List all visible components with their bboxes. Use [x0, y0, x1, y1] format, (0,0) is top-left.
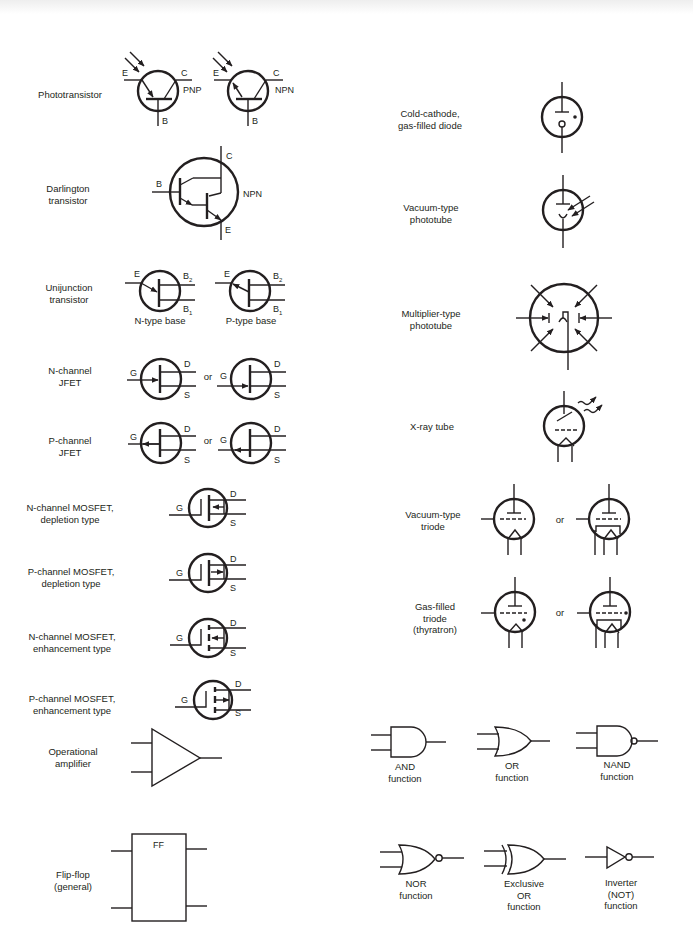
svg-text:D: D — [184, 424, 191, 434]
svg-text:E: E — [213, 68, 219, 78]
svg-text:NPN: NPN — [275, 85, 294, 95]
svg-text:G: G — [220, 435, 227, 445]
svg-text:2: 2 — [189, 277, 193, 283]
svg-text:S: S — [230, 583, 236, 593]
svg-text:S: S — [274, 455, 280, 465]
svg-text:D: D — [274, 424, 281, 434]
svg-text:S: S — [230, 648, 236, 658]
svg-text:G: G — [130, 432, 137, 442]
vacuum-phototube-icon — [543, 175, 594, 248]
svg-text:D: D — [230, 489, 237, 499]
svg-text:C: C — [226, 151, 233, 161]
ujt-ptype-icon: E B2 B1 — [215, 269, 285, 316]
svg-text:NPN: NPN — [243, 189, 262, 199]
svg-text:D: D — [230, 618, 237, 628]
svg-text:S: S — [274, 390, 280, 400]
xor-gate-icon — [484, 845, 566, 874]
phototransistor-npn-icon: E C NPN B — [213, 52, 294, 126]
pmos-enhancement-icon: G D S — [175, 679, 251, 719]
svg-text:2: 2 — [279, 277, 283, 283]
gas-triode-icon-a — [481, 577, 535, 648]
multiplier-phototube-icon — [516, 284, 612, 370]
svg-text:D: D — [230, 554, 237, 564]
svg-text:S: S — [184, 455, 190, 465]
njfet-icon-b: G D S — [217, 359, 286, 400]
vacuum-triode-icon-b — [576, 484, 629, 555]
darlington-transistor-icon: B C NPN E — [152, 146, 262, 240]
svg-text:B: B — [156, 179, 162, 189]
svg-text:D: D — [274, 359, 281, 369]
svg-text:E: E — [134, 269, 140, 279]
svg-text:FF: FF — [153, 840, 164, 850]
svg-text:D: D — [184, 359, 191, 369]
svg-text:S: S — [230, 518, 236, 528]
svg-text:S: S — [235, 708, 241, 718]
nmos-enhancement-icon: G D S — [170, 618, 246, 658]
opamp-icon — [131, 729, 222, 786]
svg-text:1: 1 — [189, 310, 193, 316]
svg-text:S: S — [184, 390, 190, 400]
svg-text:E: E — [225, 225, 231, 235]
svg-text:E: E — [122, 68, 128, 78]
pjfet-icon-a: G D S — [128, 423, 196, 465]
pmos-depletion-icon: G D S — [169, 554, 246, 593]
svg-text:PNP: PNP — [183, 85, 202, 95]
schematic-symbols-canvas: E C PNP B E C NPN B B C NPN E — [0, 0, 693, 946]
pjfet-icon-b: G D S — [218, 423, 286, 465]
nand-gate-icon — [576, 726, 658, 756]
phototransistor-pnp-icon: E C PNP B — [122, 52, 202, 126]
svg-text:G: G — [176, 633, 183, 643]
flipflop-icon: FF — [111, 834, 207, 921]
svg-text:B: B — [162, 116, 168, 126]
svg-text:C: C — [181, 68, 188, 78]
nor-gate-icon — [380, 845, 464, 874]
cold-cathode-diode-icon — [542, 82, 582, 153]
svg-text:G: G — [176, 568, 183, 578]
svg-text:B: B — [252, 116, 258, 126]
svg-text:G: G — [176, 503, 183, 513]
njfet-icon-a: G D S — [127, 359, 196, 400]
svg-text:C: C — [273, 68, 280, 78]
gas-triode-icon-b — [577, 577, 630, 648]
nmos-depletion-icon: G D S — [169, 489, 246, 528]
or-gate-icon — [477, 727, 550, 756]
svg-text:G: G — [181, 695, 188, 705]
svg-text:D: D — [235, 679, 242, 689]
ujt-ntype-icon: E B2 B1 — [125, 269, 195, 316]
and-gate-icon — [371, 727, 446, 757]
svg-text:G: G — [130, 368, 137, 378]
xray-tube-icon — [544, 391, 602, 462]
svg-text:1: 1 — [279, 310, 283, 316]
vacuum-triode-icon-a — [481, 484, 534, 555]
svg-text:G: G — [220, 371, 227, 381]
inverter-gate-icon — [585, 847, 654, 868]
svg-text:E: E — [224, 269, 230, 279]
